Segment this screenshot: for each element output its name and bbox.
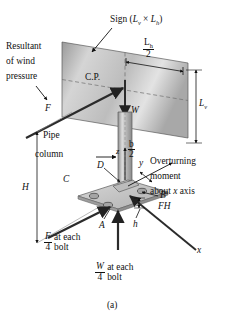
- label-axis-z: z: [116, 147, 119, 156]
- label-force-F-over-4: F 4 at each bolt: [44, 232, 80, 252]
- label-overturning-line2: moment: [150, 171, 181, 181]
- label-dimension-H: H: [22, 182, 29, 192]
- label-pipe-line1: Pipe: [43, 130, 60, 140]
- label-center-of-pressure: C.P.: [85, 72, 100, 82]
- point-D-leader: [104, 168, 120, 182]
- label-dimension-b-half: b 2: [128, 140, 135, 160]
- label-point-A: A: [99, 220, 105, 230]
- label-point-C: C: [63, 174, 69, 184]
- h-leader: [136, 209, 140, 218]
- label-dimension-lv: Lv: [199, 98, 207, 111]
- label-weight-W: W: [131, 105, 139, 115]
- label-axis-x: x: [197, 245, 201, 255]
- label-overturning-line1: Overturning: [150, 156, 196, 166]
- bolt-C: [89, 193, 98, 198]
- label-force-W-over-4: W 4 at each bolt: [95, 262, 133, 282]
- label-resultant-line1: Resultant: [6, 41, 41, 51]
- figure-wind-load-sign-post: Sign (Lv × Lh) Resultant of wind pressur…: [0, 0, 230, 325]
- label-resultant-line2: of wind: [6, 56, 35, 66]
- label-point-D: D: [97, 160, 104, 170]
- label-resultant-line3: pressure: [6, 71, 37, 81]
- label-dimension-h: h: [133, 219, 138, 229]
- label-dimension-lh-half: Lh 2: [143, 38, 154, 60]
- label-point-B: B: [160, 190, 166, 200]
- label-pipe-line2: column: [35, 149, 63, 159]
- resultant-leader-arrow: [36, 86, 47, 100]
- label-force-F: F: [45, 103, 51, 113]
- label-overturning-line3: about x axis: [150, 186, 195, 196]
- label-sign-title: Sign (Lv × Lh): [110, 14, 162, 27]
- figure-caption: (a): [107, 300, 117, 310]
- label-overturning-FH: FH: [158, 201, 171, 211]
- label-axis-y: y: [139, 158, 143, 168]
